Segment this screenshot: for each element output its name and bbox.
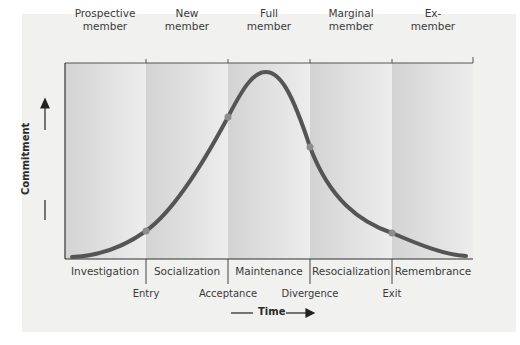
phase-line2: member (228, 20, 310, 33)
entry-marker (143, 228, 150, 235)
transition-label-exit: Exit (377, 287, 407, 300)
phase-label-ex: Ex- member (392, 7, 474, 33)
y-axis-arrow-icon (41, 99, 49, 220)
stage-label-remembrance: Remembrance (392, 265, 474, 278)
stage-label-resocialization: Resocialization (310, 265, 392, 278)
stage-label-investigation: Investigation (64, 265, 146, 278)
divergence-marker (307, 144, 314, 151)
phase-line1: Prospective (64, 7, 146, 20)
phase-label-prospective: Prospective member (64, 7, 146, 33)
phase-line2: member (146, 20, 228, 33)
phase-line1: Ex- (392, 7, 474, 20)
phase-panel-new (146, 63, 228, 259)
phase-label-marginal: Marginal member (310, 7, 392, 33)
phase-line2: member (64, 20, 146, 33)
transition-label-entry: Entry (126, 287, 166, 300)
phase-line2: member (392, 20, 474, 33)
stage-label-socialization: Socialization (146, 265, 228, 278)
transition-label-acceptance: Acceptance (198, 287, 258, 300)
phase-line1: Marginal (310, 7, 392, 20)
phase-panel-prospective (65, 63, 146, 259)
phase-line2: member (310, 20, 392, 33)
stage-label-maintenance: Maintenance (228, 265, 310, 278)
exit-marker (389, 230, 396, 237)
acceptance-marker (225, 114, 232, 121)
phase-bracket (65, 57, 473, 63)
phase-line1: New (146, 7, 228, 20)
transition-label-divergence: Divergence (280, 287, 340, 300)
commitment-diagram (0, 0, 520, 345)
y-axis-label: Commitment (20, 123, 31, 195)
x-axis-label: Time (258, 306, 285, 317)
phase-line1: Full (228, 7, 310, 20)
phase-label-new: New member (146, 7, 228, 33)
phase-panel-ex (392, 63, 473, 259)
phase-label-full: Full member (228, 7, 310, 33)
